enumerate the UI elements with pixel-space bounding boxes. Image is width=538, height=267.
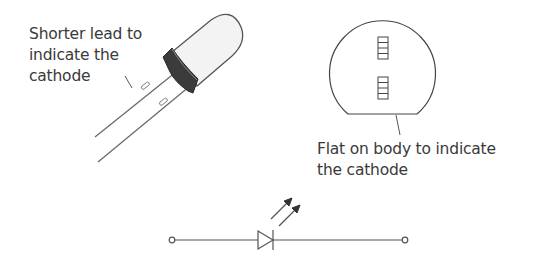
cathode-lead-marker	[141, 81, 150, 89]
flat-body-label-line-2: the cathode	[317, 160, 496, 181]
shorter-lead-label: Shorter lead to indicate the cathode	[29, 24, 142, 87]
led-symbol-icon	[169, 198, 408, 250]
light-arrow-2	[279, 210, 295, 226]
shorter-lead-label-line-1: Shorter lead to	[29, 24, 142, 45]
shorter-lead-label-line-2: indicate the	[29, 45, 142, 66]
terminal-right	[402, 237, 408, 243]
led-top-view-icon	[329, 21, 435, 135]
flat-body-label: Flat on body to indicate the cathode	[317, 139, 496, 181]
shorter-lead-label-line-3: cathode	[29, 66, 142, 87]
die-marker-upper	[378, 37, 388, 59]
flat-pointer	[396, 115, 400, 135]
diode-triangle	[258, 231, 273, 249]
terminal-left	[169, 237, 175, 243]
die-marker-lower	[378, 77, 388, 99]
light-arrow-1	[271, 203, 287, 219]
flat-body-label-line-1: Flat on body to indicate	[317, 139, 496, 160]
led-top-outline	[329, 21, 435, 114]
